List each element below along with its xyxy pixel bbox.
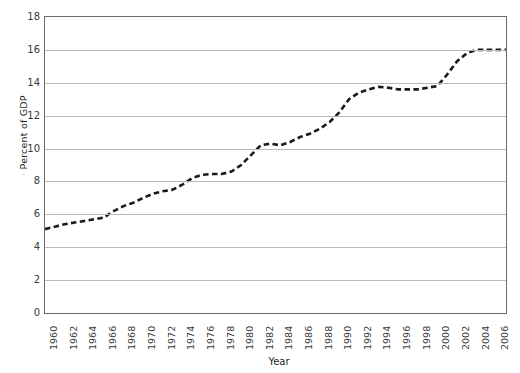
x-tick-label: 1962 (69, 326, 79, 350)
x-axis-title: Year (0, 356, 520, 367)
x-tick-label: 2000 (441, 326, 451, 350)
y-tick-label: 18 (14, 12, 40, 22)
y-tick-label: 10 (14, 144, 40, 154)
x-tick-label: 1996 (402, 326, 412, 350)
x-tick-label: 1990 (343, 326, 353, 350)
x-tick-label: 1988 (324, 326, 334, 350)
y-tick-label: 4 (14, 242, 40, 252)
series-path (45, 50, 506, 229)
chart-figure: · Percent of GDP 181614121086420 1960196… (0, 0, 520, 373)
gridline (45, 247, 506, 248)
gridline (45, 280, 506, 281)
x-tick-label: 1972 (167, 326, 177, 350)
y-tick-label: 8 (14, 176, 40, 186)
x-tick-label: 1970 (147, 326, 157, 350)
x-tick-label: 1994 (382, 326, 392, 350)
gridline (45, 149, 506, 150)
x-tick-label: 1986 (304, 326, 314, 350)
y-tick-label: 2 (14, 275, 40, 285)
gridline (45, 116, 506, 117)
x-tick-label: 1964 (88, 326, 98, 350)
x-tick-label: 1992 (363, 326, 373, 350)
gridline (45, 181, 506, 182)
x-tick-label: 1960 (49, 326, 59, 350)
y-tick-label: 12 (14, 111, 40, 121)
x-tick-label: 1982 (265, 326, 275, 350)
x-axis-title-text: Year (268, 356, 289, 367)
x-tick-label: 1984 (284, 326, 294, 350)
y-tick-label: 14 (14, 78, 40, 88)
plot-area (44, 16, 507, 314)
data-series-line (45, 17, 506, 313)
x-tick-label: 2006 (500, 326, 510, 350)
x-tick-label: 1968 (127, 326, 137, 350)
x-tick-label: 1998 (422, 326, 432, 350)
y-tick-label: 16 (14, 45, 40, 55)
y-tick-label: 6 (14, 209, 40, 219)
x-tick-label: 1980 (245, 326, 255, 350)
gridline (45, 50, 506, 51)
gridline (45, 83, 506, 84)
gridline (45, 214, 506, 215)
x-tick-label: 1976 (206, 326, 216, 350)
x-tick-label: 2002 (461, 326, 471, 350)
x-tick-label: 1978 (226, 326, 236, 350)
x-tick-label: 1966 (108, 326, 118, 350)
x-tick-label: 1974 (186, 326, 196, 350)
x-tick-label: 2004 (481, 326, 491, 350)
